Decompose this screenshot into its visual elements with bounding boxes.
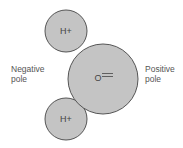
negative-pole-line1: Negative <box>11 64 45 74</box>
oxygen-atom <box>68 44 138 114</box>
positive-pole-line2: pole <box>145 74 175 84</box>
oxygen-label: O <box>94 73 101 83</box>
positive-pole-line1: Positive <box>145 64 175 74</box>
hydrogen-bottom-label: H+ <box>60 114 72 124</box>
negative-pole-label: Negative pole <box>11 64 45 84</box>
hydrogen-top-label: H+ <box>60 26 72 36</box>
negative-pole-line2: pole <box>11 74 45 84</box>
positive-pole-label: Positive pole <box>145 64 175 84</box>
